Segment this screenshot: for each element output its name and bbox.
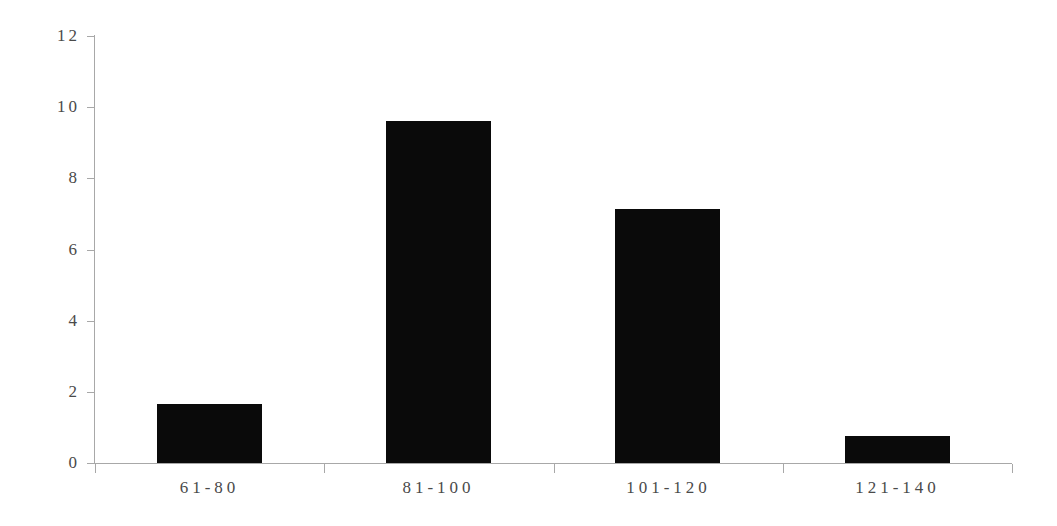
x-axis-tick [1012, 464, 1013, 473]
bar [157, 404, 262, 463]
x-axis-tick [324, 464, 325, 473]
bar [845, 436, 950, 463]
x-axis-category-label: 81-100 [324, 479, 553, 496]
bar-chart: 024681012 61-8081-100101-120121-140 [0, 0, 1057, 526]
x-axis-tick [783, 464, 784, 473]
x-axis-tick [554, 464, 555, 473]
x-axis-category-label: 101-120 [554, 479, 783, 496]
x-axis-category-label: 61-80 [95, 479, 324, 496]
bar [386, 121, 491, 463]
x-axis-category-label: 121-140 [783, 479, 1012, 496]
bars-layer [0, 0, 1057, 463]
bar [615, 209, 720, 463]
y-axis-tick [87, 463, 95, 464]
x-axis-tick [95, 464, 96, 473]
